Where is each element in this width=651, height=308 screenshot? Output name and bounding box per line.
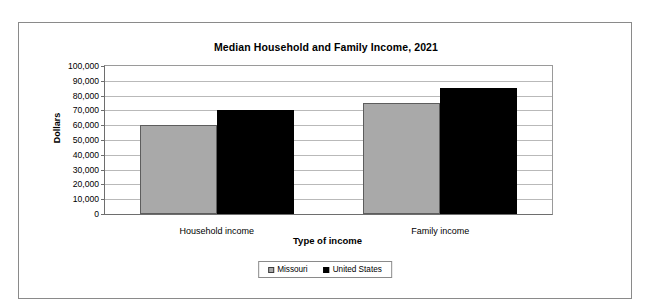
y-axis-tick-label: 10,000 bbox=[73, 194, 99, 204]
bar-united-states bbox=[440, 88, 517, 214]
y-axis-tick bbox=[101, 125, 105, 126]
y-axis-tick-label: 30,000 bbox=[73, 165, 99, 175]
legend-item-label: United States bbox=[333, 265, 382, 274]
y-axis-tick bbox=[101, 214, 105, 215]
bar-missouri bbox=[140, 125, 217, 214]
plot-area: 100,00090,00080,00070,00060,00050,00040,… bbox=[104, 65, 553, 215]
legend-item: United States bbox=[324, 265, 382, 274]
y-axis-tick-label: 0 bbox=[94, 209, 99, 219]
y-axis-tick bbox=[101, 66, 105, 67]
black-square-icon bbox=[324, 267, 330, 273]
y-axis-tick bbox=[101, 140, 105, 141]
bar-united-states bbox=[217, 110, 294, 214]
y-axis-title: Dollars bbox=[52, 88, 62, 168]
x-axis-title: Type of income bbox=[104, 235, 551, 246]
y-axis-tick bbox=[101, 170, 105, 171]
y-axis-tick-label: 40,000 bbox=[73, 150, 99, 160]
y-axis-tick-label: 100,000 bbox=[68, 61, 99, 71]
y-axis-tick-label: 80,000 bbox=[73, 91, 99, 101]
y-axis-tick-label: 60,000 bbox=[73, 120, 99, 130]
legend-item: Missouri bbox=[268, 265, 307, 274]
gridline bbox=[105, 81, 552, 82]
y-axis-tick bbox=[101, 199, 105, 200]
y-axis-tick bbox=[101, 184, 105, 185]
y-axis-tick bbox=[101, 155, 105, 156]
y-axis-tick-label: 90,000 bbox=[73, 76, 99, 86]
legend-item-label: Missouri bbox=[277, 265, 307, 274]
y-axis-tick bbox=[101, 96, 105, 97]
chart-legend: MissouriUnited States bbox=[258, 261, 392, 278]
y-axis-tick-label: 20,000 bbox=[73, 179, 99, 189]
gray-square-icon bbox=[268, 267, 274, 273]
chart-container: Median Household and Family Income, 2021… bbox=[18, 22, 632, 299]
y-axis-tick bbox=[101, 110, 105, 111]
chart-title: Median Household and Family Income, 2021 bbox=[19, 41, 633, 53]
bar-missouri bbox=[363, 103, 440, 214]
y-axis-tick-label: 70,000 bbox=[73, 105, 99, 115]
y-axis-tick-label: 50,000 bbox=[73, 135, 99, 145]
y-axis-tick bbox=[101, 81, 105, 82]
